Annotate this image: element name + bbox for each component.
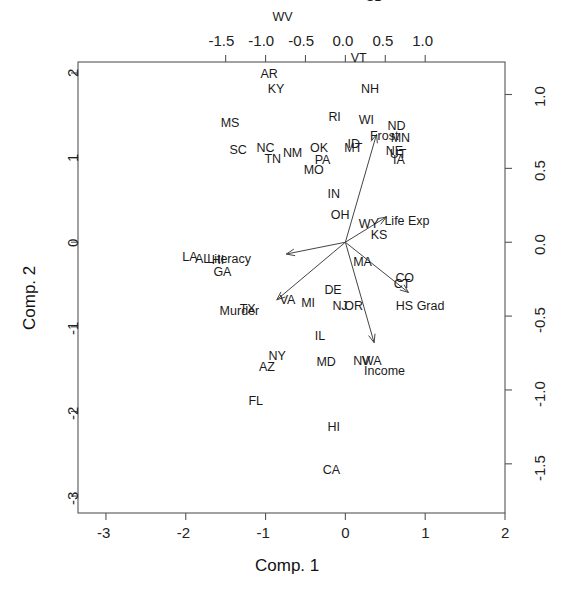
x-axis-title: Comp. 1 <box>255 556 319 576</box>
state-point-label: TN <box>265 152 281 166</box>
state-point-label: CT <box>394 277 410 291</box>
x-tick-label: 1 <box>421 524 429 541</box>
state-point-label: IL <box>315 329 325 343</box>
y2-tick-label: -1.0 <box>531 381 548 407</box>
x-tick-label: -3 <box>97 524 110 541</box>
x-tick-label: 0 <box>341 524 349 541</box>
state-point-label: WV <box>273 10 293 24</box>
y-tick-label: -1 <box>64 322 81 335</box>
y2-tick-label: -1.5 <box>531 455 548 481</box>
state-point-label: CA <box>323 463 340 477</box>
state-point-label: VA <box>280 293 296 307</box>
variable-label: Income <box>364 364 405 378</box>
state-point-label: RI <box>328 110 340 124</box>
y-axis-title: Comp. 2 <box>20 266 40 330</box>
y-tick-label: -2 <box>64 407 81 420</box>
y-tick-label: 2 <box>64 69 81 77</box>
state-point-label: OH <box>331 208 350 222</box>
variable-label: HS Grad <box>396 299 445 313</box>
state-point-label: IN <box>328 187 340 201</box>
x-tick-label: 2 <box>501 524 509 541</box>
state-point-label: NH <box>361 82 379 96</box>
state-point-label: IA <box>393 153 405 167</box>
variable-label: Frost <box>370 129 398 143</box>
y2-tick-label: 0.5 <box>531 160 548 181</box>
state-point-label: MS <box>221 116 240 130</box>
state-point-label: SD <box>366 0 383 4</box>
state-point-label: KY <box>268 82 284 96</box>
x2-tick-label: -1.0 <box>248 32 274 49</box>
state-point-label: VT <box>351 51 367 65</box>
state-point-label: MA <box>353 255 372 269</box>
state-point-label: MI <box>301 296 315 310</box>
state-point-label: FL <box>249 394 263 408</box>
y2-tick-label: 1.0 <box>531 87 548 108</box>
y-tick-label: -3 <box>64 491 81 504</box>
y2-tick-label: 0.0 <box>531 234 548 255</box>
y-tick-label: 0 <box>64 238 81 246</box>
variable-label: Life Exp <box>384 214 429 228</box>
vector-line <box>286 242 345 254</box>
variable-label: Literacy <box>207 252 251 266</box>
state-point-label: ID <box>348 137 360 151</box>
x2-tick-label: 0.5 <box>372 32 393 49</box>
x2-tick-label: 0.0 <box>332 32 353 49</box>
state-point-label: MD <box>316 355 335 369</box>
variable-label: Murder <box>220 304 260 318</box>
state-point-label: NM <box>283 146 302 160</box>
x2-tick-label: -0.5 <box>288 32 314 49</box>
state-point-label: MO <box>304 163 324 177</box>
state-point-label: SC <box>229 143 246 157</box>
vector-arrowhead <box>286 254 295 256</box>
state-point-label: WI <box>359 113 374 127</box>
state-point-label: GA <box>213 265 231 279</box>
x-tick-label: -2 <box>177 524 190 541</box>
x2-tick-label: 1.0 <box>412 32 433 49</box>
state-point-label: HI <box>328 420 340 434</box>
state-point-label: AZ <box>259 360 275 374</box>
x2-tick-label: -1.5 <box>208 32 234 49</box>
y-tick-label: 1 <box>64 154 81 162</box>
vector-arrowhead <box>374 334 375 343</box>
biplot-figure: Comp. 1 Comp. 2 -3-2-1012-1.5-1.0-0.50.0… <box>0 0 570 593</box>
state-point-label: AR <box>261 67 278 81</box>
y2-tick-label: -0.5 <box>531 307 548 333</box>
state-point-label: KS <box>371 228 387 242</box>
state-point-label: OR <box>344 299 363 313</box>
state-point-label: DE <box>324 283 341 297</box>
x-tick-label: -1 <box>257 524 270 541</box>
